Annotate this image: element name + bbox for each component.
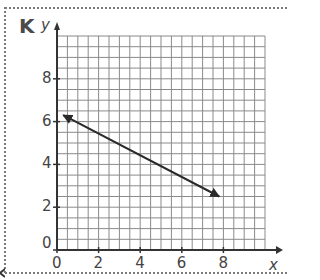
- x-tick-label: 8: [218, 254, 228, 272]
- y-axis-label: y: [41, 16, 50, 34]
- y-tick-label: 8: [42, 69, 52, 87]
- x-axis-arrow-icon: [276, 246, 283, 254]
- y-tick-label: 0: [42, 234, 52, 252]
- grid: [57, 36, 265, 250]
- x-tick-label: 2: [94, 254, 104, 272]
- y-tick-label: 6: [42, 112, 52, 130]
- y-tick-label: 4: [42, 154, 52, 172]
- y-axis-arrow-icon: [54, 22, 60, 30]
- data-line: [63, 115, 219, 196]
- x-tick-label: 0: [52, 254, 62, 272]
- y-tick-label: 2: [42, 197, 52, 215]
- x-tick-label: 4: [135, 254, 145, 272]
- x-tick-label: 6: [177, 254, 187, 272]
- x-axis-label: x: [269, 256, 278, 274]
